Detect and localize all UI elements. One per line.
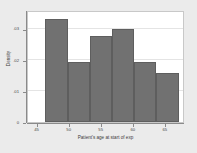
histogram-bar bbox=[134, 62, 156, 122]
x-axis-line bbox=[27, 123, 184, 124]
x-axis-title: Patient's age at start of exp bbox=[27, 135, 184, 140]
y-axis-line bbox=[26, 11, 27, 123]
y-tick-label: 0 bbox=[0, 121, 19, 125]
histogram-figure: 0.01.02.03 Density 4550556065 Patient's … bbox=[0, 0, 197, 153]
y-axis-title: Density bbox=[6, 39, 11, 79]
y-tick-mark bbox=[23, 61, 26, 62]
x-tick-label: 55 bbox=[91, 128, 111, 132]
histogram-bar bbox=[45, 19, 67, 122]
y-tick-mark bbox=[23, 30, 26, 31]
y-tick-label: .03 bbox=[0, 27, 19, 31]
x-tick-label: 65 bbox=[155, 128, 175, 132]
histogram-bar bbox=[156, 73, 178, 122]
histogram-bar bbox=[68, 62, 90, 122]
y-tick-mark bbox=[23, 123, 26, 124]
x-tick-label: 45 bbox=[27, 128, 47, 132]
y-tick-mark bbox=[23, 92, 26, 93]
x-tick-label: 60 bbox=[123, 128, 143, 132]
x-tick-label: 50 bbox=[59, 128, 79, 132]
histogram-bar bbox=[90, 36, 112, 122]
plot-area bbox=[28, 12, 183, 122]
y-tick-label: .01 bbox=[0, 90, 19, 94]
plot-panel bbox=[27, 11, 184, 123]
histogram-bar bbox=[112, 29, 134, 122]
